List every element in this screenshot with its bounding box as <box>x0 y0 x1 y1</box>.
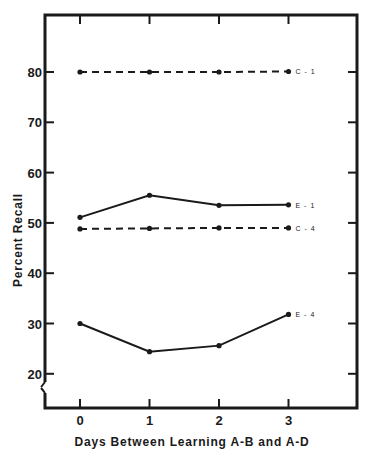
x-tick-label: 1 <box>146 413 153 428</box>
data-point-marker <box>216 343 221 348</box>
axis-break-mark <box>41 382 45 387</box>
data-point-marker <box>147 349 152 354</box>
series-label: E - 4 <box>296 311 316 318</box>
series-e-1: E - 1 <box>77 193 315 220</box>
series-c-4: C - 4 <box>77 225 315 232</box>
series-e-4: E - 4 <box>77 311 315 354</box>
data-point-marker <box>77 215 82 220</box>
data-point-marker <box>286 69 291 74</box>
series-line <box>80 195 289 217</box>
series-line <box>80 228 289 229</box>
series-line <box>80 314 289 351</box>
data-point-marker <box>216 203 221 208</box>
x-tick-label: 2 <box>215 413 222 428</box>
y-tick-label: 30 <box>28 317 42 332</box>
y-tick-label: 70 <box>28 115 42 130</box>
series-line <box>80 71 289 72</box>
data-point-marker <box>216 225 221 230</box>
data-point-marker <box>147 226 152 231</box>
data-point-marker <box>216 69 221 74</box>
x-tick-label: 3 <box>285 413 292 428</box>
data-point-marker <box>286 202 291 207</box>
y-tick-label: 40 <box>28 266 42 281</box>
y-tick-label: 80 <box>28 65 42 80</box>
y-tick-label: 20 <box>28 367 42 382</box>
y-tick-label: 60 <box>28 166 42 181</box>
series-label: C - 1 <box>296 68 316 75</box>
series-c-1: C - 1 <box>77 68 315 75</box>
y-axis-ticks: 20304050607080 <box>28 65 357 382</box>
x-axis-title: Days Between Learning A-B and A-D <box>75 435 310 449</box>
line-chart: 20304050607080 0123 C - 1E - 1C - 4E - 4… <box>0 0 371 460</box>
series-label: E - 1 <box>296 202 316 209</box>
data-point-marker <box>77 321 82 326</box>
series-label: C - 4 <box>296 225 316 232</box>
data-point-marker <box>77 69 82 74</box>
data-point-marker <box>286 312 291 317</box>
y-tick-label: 50 <box>28 216 42 231</box>
data-point-marker <box>286 225 291 230</box>
y-axis-title: Percent Recall <box>11 193 25 287</box>
series-group: C - 1E - 1C - 4E - 4 <box>77 68 315 354</box>
data-point-marker <box>147 69 152 74</box>
axis-break-mark <box>41 388 45 393</box>
x-tick-label: 0 <box>76 413 83 428</box>
x-axis-ticks: 0123 <box>76 15 292 428</box>
data-point-marker <box>77 226 82 231</box>
data-point-marker <box>147 193 152 198</box>
